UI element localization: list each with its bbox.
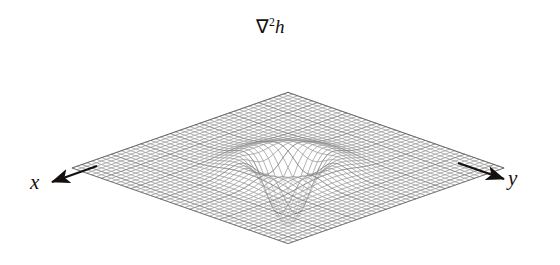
z-axis-label: ∇2h <box>256 17 284 36</box>
x-axis-label: x <box>30 172 39 193</box>
figure-container: ∇2h x y <box>0 0 560 265</box>
y-axis-label: y <box>508 168 517 189</box>
nabla-icon: ∇ <box>256 16 269 37</box>
z-function-name: h <box>275 16 285 37</box>
surface-mesh-plot <box>0 0 560 265</box>
